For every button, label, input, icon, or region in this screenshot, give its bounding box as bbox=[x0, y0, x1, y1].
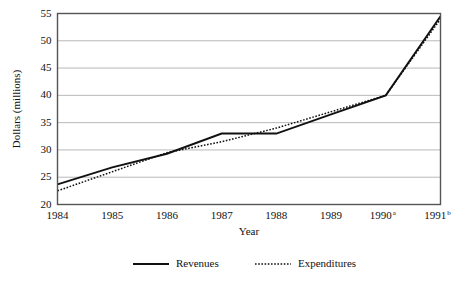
x-tick-superscript: b bbox=[447, 209, 451, 217]
x-tick-label: 1991b bbox=[424, 209, 451, 221]
line-chart-figure: 2025303540455055198419851986198719881989… bbox=[0, 0, 466, 291]
y-tick-label: 55 bbox=[41, 7, 53, 19]
series-line-revenues bbox=[58, 16, 441, 184]
x-tick-label: 1988 bbox=[265, 209, 288, 221]
x-tick-label: 1985 bbox=[101, 209, 124, 221]
x-tick-superscript: a bbox=[393, 209, 397, 217]
y-tick-label: 30 bbox=[41, 143, 53, 155]
plot-frame bbox=[58, 14, 441, 205]
x-tick-label: 1989 bbox=[320, 209, 343, 221]
y-tick-label: 25 bbox=[41, 170, 53, 182]
x-tick-label: 1984 bbox=[47, 209, 70, 221]
y-tick-label: 50 bbox=[41, 34, 53, 46]
legend: RevenuesExpenditures bbox=[133, 257, 356, 269]
chart-canvas: 2025303540455055198419851986198719881989… bbox=[0, 0, 466, 291]
series-group bbox=[58, 16, 441, 191]
y-axis-title: Dollars (millions) bbox=[10, 69, 23, 148]
x-axis-tick-labels: 1984198519861987198819891990a1991b bbox=[47, 209, 452, 221]
gridlines bbox=[58, 14, 441, 205]
plot-border bbox=[58, 14, 441, 205]
x-axis-title: Year bbox=[239, 225, 260, 237]
y-tick-label: 40 bbox=[41, 88, 53, 100]
x-tick-label: 1987 bbox=[211, 209, 234, 221]
y-tick-label: 35 bbox=[41, 116, 53, 128]
x-tick-label: 1990a bbox=[370, 209, 397, 221]
legend-label-revenues: Revenues bbox=[176, 257, 219, 269]
series-line-expenditures bbox=[58, 19, 441, 191]
legend-label-expenditures: Expenditures bbox=[298, 257, 356, 269]
x-tick-label: 1986 bbox=[156, 209, 179, 221]
y-axis-tick-labels: 2025303540455055 bbox=[41, 7, 53, 210]
y-tick-label: 45 bbox=[41, 61, 53, 73]
